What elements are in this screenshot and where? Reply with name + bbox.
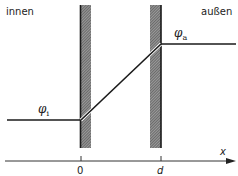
linear-gradient-line xyxy=(81,44,161,120)
phi-subscript: i xyxy=(46,109,49,118)
label-inside: innen xyxy=(6,7,34,17)
wall-left xyxy=(80,5,91,148)
tick-label-0: 0 xyxy=(77,166,83,176)
phi-subscript: a xyxy=(182,33,187,42)
label-phi-inside: φi xyxy=(38,103,49,115)
wall-right xyxy=(150,5,161,148)
label-phi-outside: φa xyxy=(174,27,187,39)
label-outside: außen xyxy=(201,7,232,17)
axis-label-x: x xyxy=(220,147,226,157)
x-axis xyxy=(5,156,236,164)
tick-label-d: d xyxy=(157,166,163,176)
axis-arrow-icon xyxy=(226,158,236,164)
diagram-canvas xyxy=(0,0,238,176)
